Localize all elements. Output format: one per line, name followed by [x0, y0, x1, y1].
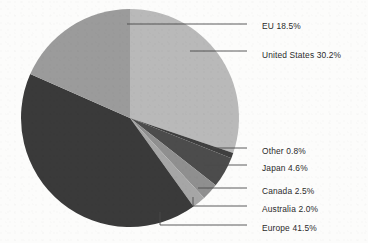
slice-label-australia: Australia 2.0%	[262, 205, 318, 213]
slice-label-eu: EU 18.5%	[262, 22, 301, 30]
pie-slice-group	[21, 9, 239, 227]
slice-label-europe: Europe 41.5%	[262, 224, 317, 232]
pie-chart-figure: EU 18.5%United States 30.2%Other 0.8%Jap…	[0, 0, 368, 243]
slice-label-other: Other 0.8%	[262, 147, 306, 155]
slice-label-japan: Japan 4.6%	[262, 164, 308, 172]
slice-label-canada: Canada 2.5%	[262, 187, 314, 195]
slice-label-united-states: United States 30.2%	[262, 51, 341, 59]
